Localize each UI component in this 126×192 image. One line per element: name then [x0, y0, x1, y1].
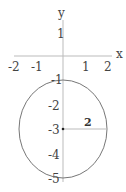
- center-point: [62, 128, 65, 131]
- y-tick-label: -5: [48, 172, 60, 186]
- y-tick-label: -4: [48, 148, 60, 162]
- x-tick-label: -1: [31, 60, 43, 74]
- y-tick-label: 1: [57, 27, 65, 41]
- x-tick-label: 1: [82, 60, 90, 74]
- circle-plot: x y -2 -1 1 2 1 -1 -2 -3 -4 -5 2: [0, 0, 126, 192]
- y-tick-label: -2: [48, 99, 60, 113]
- y-axis-label: y: [57, 6, 65, 20]
- y-tick-label: -3: [48, 123, 60, 137]
- x-tick-label: -2: [8, 60, 20, 74]
- y-tick-label: -1: [51, 73, 63, 87]
- radius-label: 2: [84, 116, 92, 129]
- x-axis-label: x: [116, 47, 123, 61]
- x-tick-label: 2: [104, 60, 112, 74]
